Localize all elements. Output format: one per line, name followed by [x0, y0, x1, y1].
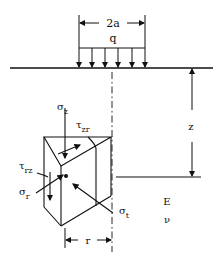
elastic-modulus-label: E	[163, 196, 170, 207]
stress-element-diagram: 2a q z σz τ	[0, 0, 219, 261]
radius-label: r	[86, 235, 91, 246]
distributed-load: q	[79, 32, 145, 67]
load-intensity-label: q	[109, 32, 116, 45]
poisson-ratio-label: ν	[164, 214, 170, 225]
sigma-t-label: σt	[119, 205, 130, 220]
load-width-label: 2a	[106, 17, 120, 30]
sigma-z-label: σz	[57, 101, 68, 116]
radius-dimension: r	[65, 228, 111, 248]
depth-label: z	[188, 121, 193, 132]
stress-point	[64, 174, 68, 178]
sigma-r-label: σr	[19, 186, 30, 201]
tau-rz-label: τrz	[19, 160, 33, 175]
tau-zr-label: τzr	[76, 119, 90, 134]
stress-arrows	[36, 108, 113, 213]
depth-dimension: z	[116, 69, 201, 177]
